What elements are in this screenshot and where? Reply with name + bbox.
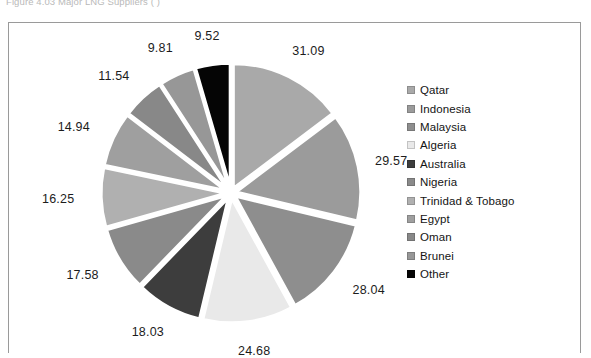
legend-item[interactable]: Egypt — [407, 210, 577, 228]
legend-swatch-icon — [407, 233, 415, 241]
legend-item[interactable]: Australia — [407, 155, 577, 173]
legend-swatch-icon — [407, 86, 415, 94]
legend-swatch-icon — [407, 105, 415, 113]
pie-data-label: 9.81 — [148, 41, 173, 55]
legend-item-label: Nigeria — [420, 176, 457, 188]
legend-item[interactable]: Algeria — [407, 136, 577, 154]
legend-swatch-icon — [407, 141, 415, 149]
legend-swatch-icon — [407, 197, 415, 205]
figure-caption: Figure 4.03 Major LNG Suppliers ( ) — [6, 0, 426, 8]
legend-item-label: Indonesia — [420, 103, 471, 115]
legend-item[interactable]: Qatar — [407, 81, 577, 99]
legend-item-label: Trinidad & Tobago — [420, 195, 514, 207]
legend-item[interactable]: Brunei — [407, 247, 577, 265]
pie-chart-svg — [9, 23, 409, 353]
legend-item[interactable]: Malaysia — [407, 118, 577, 136]
pie-chart-plot-area: 31.0929.5728.0424.6818.0317.5816.2514.94… — [9, 23, 409, 353]
legend-item-label: Australia — [420, 158, 466, 170]
pie-data-label: 29.57 — [375, 154, 407, 168]
legend-swatch-icon — [407, 178, 415, 186]
legend-item-label: Malaysia — [420, 121, 466, 133]
pie-data-label: 24.68 — [238, 344, 270, 358]
legend-swatch-icon — [407, 252, 415, 260]
legend-item[interactable]: Oman — [407, 228, 577, 246]
pie-data-label: 11.54 — [98, 69, 129, 83]
pie-data-label: 14.94 — [58, 120, 90, 134]
pie-data-label: 9.52 — [194, 29, 219, 43]
pie-data-label: 17.58 — [66, 268, 98, 282]
legend-item-label: Brunei — [420, 250, 454, 262]
legend-swatch-icon — [407, 123, 415, 131]
legend-item-label: Oman — [420, 231, 452, 243]
chart-frame: 31.0929.5728.0424.6818.0317.5816.2514.94… — [8, 22, 581, 353]
legend-swatch-icon — [407, 215, 415, 223]
pie-data-label: 16.25 — [42, 192, 74, 206]
legend-item-label: Other — [420, 268, 449, 280]
pie-data-label: 28.04 — [353, 283, 385, 297]
legend-item[interactable]: Other — [407, 265, 577, 283]
legend-item-label: Algeria — [420, 139, 457, 151]
legend-item-label: Egypt — [420, 213, 450, 225]
legend-swatch-icon — [407, 160, 415, 168]
legend-item-label: Qatar — [420, 84, 449, 96]
legend-swatch-icon — [407, 270, 415, 278]
pie-data-label: 18.03 — [132, 325, 164, 339]
chart-legend: QatarIndonesiaMalaysiaAlgeriaAustraliaNi… — [407, 81, 577, 283]
pie-data-label: 31.09 — [292, 44, 324, 58]
legend-item[interactable]: Indonesia — [407, 99, 577, 117]
legend-item[interactable]: Trinidad & Tobago — [407, 191, 577, 209]
legend-item[interactable]: Nigeria — [407, 173, 577, 191]
